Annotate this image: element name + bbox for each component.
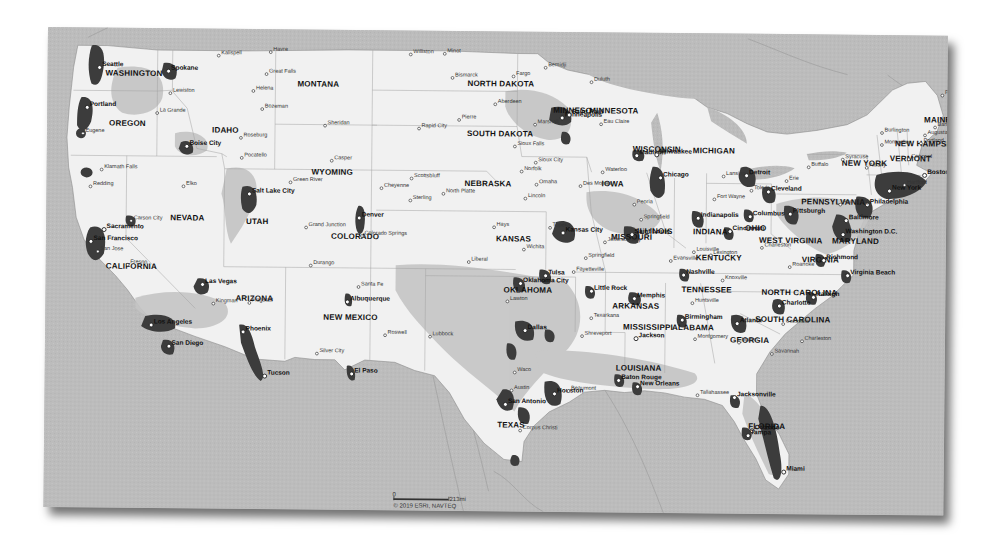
city-dot-icon	[634, 337, 638, 341]
city-dot-icon	[934, 126, 937, 129]
city-dot-icon	[567, 113, 571, 117]
city-label: Shreveport	[585, 330, 612, 336]
city-label: Tampa	[751, 428, 772, 436]
city-dot-icon	[82, 132, 85, 135]
city-label: Bismarck	[455, 71, 478, 77]
city-dot-icon	[167, 344, 171, 348]
city-dot-icon	[632, 297, 636, 301]
state-label: NEW MEXICO	[323, 313, 378, 323]
city-label: Pierre	[462, 113, 477, 119]
city-label: Eau Claire	[604, 118, 630, 124]
city-label: Saint Paul	[572, 108, 604, 115]
city-label: Richmond	[826, 253, 858, 260]
city-dot-icon	[748, 215, 752, 219]
city-label: San Francisco	[93, 234, 138, 241]
city-dot-icon	[503, 402, 507, 406]
city-label: Jacksonville	[737, 390, 776, 397]
city-dot-icon	[89, 239, 93, 243]
city-dot-icon	[659, 176, 663, 180]
city-label: Redding	[93, 180, 114, 186]
city-dot-icon	[732, 396, 736, 400]
city-label: Montgomery	[698, 333, 729, 339]
city-dot-icon	[841, 158, 844, 161]
city-label: Beaumont	[571, 385, 597, 391]
city-dot-icon	[841, 233, 845, 237]
city-label: Augusta	[928, 129, 948, 135]
city-label: Montpelier	[884, 139, 910, 145]
city-dot-icon	[844, 219, 848, 223]
state-label: INDIANA	[693, 227, 728, 236]
state-label: TEXAS	[497, 420, 525, 429]
city-label: Austin	[514, 384, 529, 390]
city-dot-icon	[418, 127, 421, 130]
city-label: Duluth	[594, 76, 610, 82]
city-label: Marshall	[538, 118, 559, 124]
city-dot-icon	[350, 372, 354, 376]
city-label: Wichita	[526, 243, 545, 249]
city-dot-icon	[907, 158, 910, 161]
city-label: Santa Fe	[361, 281, 383, 287]
state-label: SOUTH DAKOTA	[467, 129, 533, 139]
city-dot-icon	[887, 189, 891, 193]
city-label: Green River	[293, 176, 323, 182]
city-label: Burlington	[885, 127, 910, 133]
city-label: Rapid City	[422, 122, 448, 128]
city-label: Portland	[923, 137, 944, 143]
city-dot-icon	[590, 317, 593, 320]
city-label: Columbia	[786, 318, 810, 324]
city-label: Cincinnati	[733, 224, 765, 231]
city-label: Lewiston	[173, 87, 195, 93]
city-dot-icon	[801, 340, 804, 343]
city-label: Huntsville	[695, 297, 719, 303]
city-dot-icon	[721, 279, 724, 282]
city-label: Atlanta	[740, 316, 762, 323]
city-dot-icon	[770, 353, 773, 356]
city-dot-icon	[494, 103, 497, 106]
city-label: Erie	[789, 175, 799, 181]
city-dot-icon	[534, 123, 537, 126]
map-card[interactable]: WASHINGTONOREGONCALIFORNIANEVADAIDAHOMON…	[43, 27, 948, 516]
city-dot-icon	[100, 168, 103, 171]
city-label: Bemidji	[548, 61, 566, 67]
city-dot-icon	[655, 153, 659, 157]
city-dot-icon	[520, 170, 523, 173]
city-dot-icon	[617, 378, 621, 382]
city-label: Corpus Christi	[523, 424, 558, 430]
city-label: Kingman	[216, 297, 238, 303]
us-map[interactable]: WASHINGTONOREGONCALIFORNIANEVADAIDAHOMON…	[43, 27, 948, 516]
city-dot-icon	[315, 352, 318, 355]
city-label: Durango	[313, 259, 334, 265]
city-dot-icon	[169, 92, 172, 95]
city-label: Williston	[413, 48, 434, 54]
city-dot-icon	[410, 177, 413, 180]
city-dot-icon	[807, 166, 810, 169]
city-dot-icon	[409, 199, 412, 202]
city-label: Norfolk	[524, 165, 542, 171]
city-label: New Orleans	[640, 379, 680, 386]
city-dot-icon	[746, 434, 750, 438]
city-dot-icon	[98, 65, 102, 69]
city-dot-icon	[380, 187, 383, 190]
city-label: Fayetteville	[576, 266, 604, 272]
city-label: Sheridan	[328, 119, 350, 125]
state-label: MONTANA	[297, 79, 339, 88]
city-dot-icon	[561, 231, 565, 235]
city-label: Lexington	[713, 249, 737, 255]
city-dot-icon	[185, 144, 189, 148]
city-dot-icon	[96, 250, 99, 253]
city-label: Lawton	[510, 295, 528, 301]
city-dot-icon	[636, 385, 640, 389]
city-dot-icon	[212, 302, 215, 305]
city-dot-icon	[252, 90, 255, 93]
city-dot-icon	[777, 304, 781, 308]
city-label: Milwaukee	[659, 147, 692, 154]
city-label: Minot	[447, 47, 461, 53]
city-label: Buffalo	[811, 161, 828, 167]
state-label: UTAH	[246, 217, 269, 226]
city-dot-icon	[305, 226, 308, 229]
city-dot-icon	[289, 181, 292, 184]
city-dot-icon	[692, 251, 695, 254]
city-dot-icon	[640, 218, 643, 221]
city-dot-icon	[265, 73, 268, 76]
city-label: Lincoln	[528, 192, 545, 198]
